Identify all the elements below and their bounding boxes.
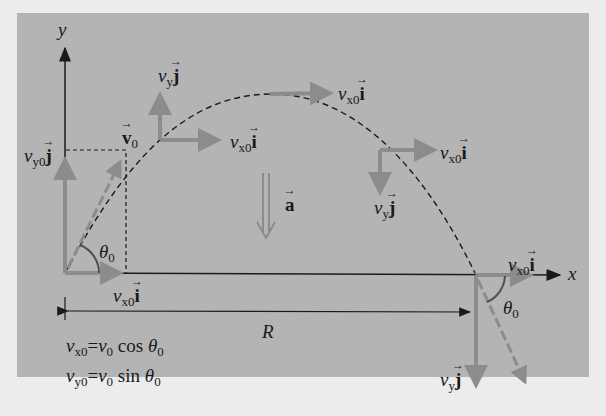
vx0-arrow-apex	[270, 93, 330, 94]
theta0-label: θ0	[99, 242, 115, 264]
v0-label: v0	[122, 128, 138, 150]
equation-vy0: vy0=v0 sin θ0	[66, 366, 161, 388]
x-axis-label: x	[568, 264, 576, 283]
vyj-label-up: vyj	[158, 66, 179, 88]
vx0i-label-end: vx0i	[508, 255, 535, 277]
vx0i-label-apex: vx0i	[338, 84, 365, 106]
vx0i-label-3: vx0i	[440, 143, 467, 165]
range-label: R	[262, 322, 274, 341]
panel	[17, 13, 589, 377]
vx0i-label-start: vx0i	[113, 286, 140, 308]
theta0-label-end: θ0	[503, 298, 519, 320]
vyj-label-down-3: vyj	[374, 198, 395, 220]
equation-vx0: vx0=v0 cos θ0	[66, 336, 164, 358]
vyj-label-end: vyj	[440, 370, 461, 392]
y-axis-label: y	[58, 20, 66, 39]
accel-label: a	[285, 195, 295, 214]
vx0i-label-2: vx0i	[230, 132, 257, 154]
vy0j-label: vy0j	[24, 146, 52, 168]
